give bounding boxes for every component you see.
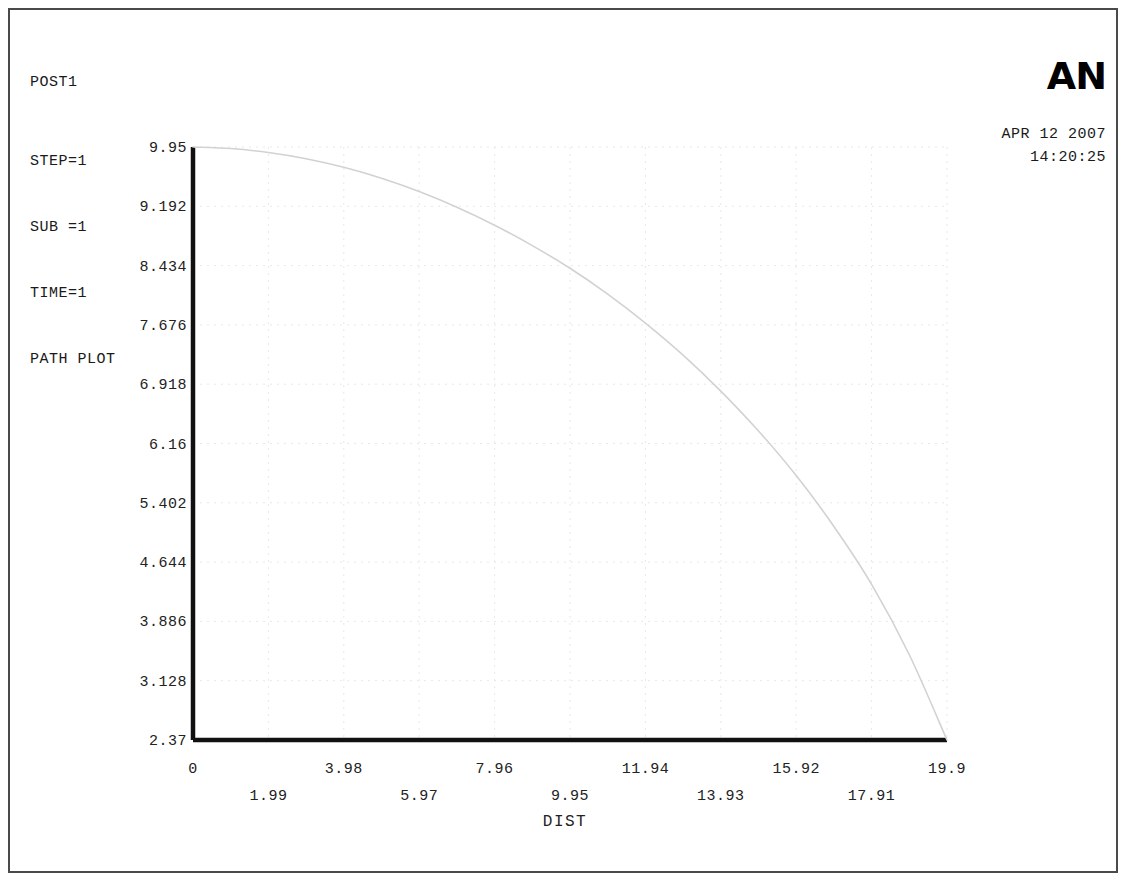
x-axis-tick-label: 3.98 <box>325 761 363 778</box>
y-axis-tick-label: 9.192 <box>139 199 187 216</box>
x-axis-tick-label: 13.93 <box>697 788 745 805</box>
path-plot-chart: 9.959.1928.4347.6766.9186.165.4024.6443.… <box>0 0 1128 883</box>
y-axis-tick-label: 9.95 <box>149 140 187 157</box>
x-axis-tick-label: 19.9 <box>928 761 966 778</box>
y-axis-tick-label: 3.886 <box>139 614 187 631</box>
grid-lines-group <box>193 147 947 740</box>
y-axis-tick-label: 6.16 <box>149 437 187 454</box>
y-axis-tick-label: 4.644 <box>139 555 187 572</box>
ansys-path-plot-window: POST1 STEP=1 SUB =1 TIME=1 PATH PLOT AN … <box>0 0 1128 883</box>
y-axis-tick-label: 3.128 <box>139 674 187 691</box>
x-tick-labels-group: 03.987.9611.9415.9219.91.995.979.9513.93… <box>188 761 966 805</box>
x-axis-tick-label: 0 <box>188 761 198 778</box>
x-axis-tick-label: 15.92 <box>772 761 820 778</box>
x-axis-tick-label: 5.97 <box>400 788 438 805</box>
y-tick-labels-group: 9.959.1928.4347.6766.9186.165.4024.6443.… <box>139 140 187 750</box>
y-axis-tick-label: 5.402 <box>139 496 187 513</box>
x-axis-title: DIST <box>543 813 587 831</box>
x-axis-tick-label: 7.96 <box>476 761 514 778</box>
x-axis-tick-label: 17.91 <box>848 788 896 805</box>
y-axis-tick-label: 6.918 <box>139 377 187 394</box>
y-axis-tick-label: 2.37 <box>149 733 187 750</box>
x-axis-tick-label: 1.99 <box>249 788 287 805</box>
y-axis-tick-label: 8.434 <box>139 259 187 276</box>
x-axis-tick-label: 11.94 <box>622 761 670 778</box>
x-axis-tick-label: 9.95 <box>551 788 589 805</box>
y-axis-tick-label: 7.676 <box>139 318 187 335</box>
